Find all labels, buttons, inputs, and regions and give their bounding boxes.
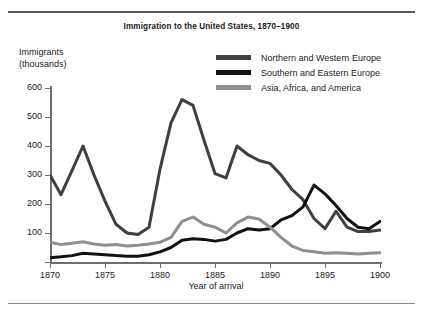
legend-item[interactable]: Southern and Eastern Europe [216, 65, 381, 80]
y-tick-label: 200 [12, 198, 42, 208]
y-tick-label: 100 [12, 227, 42, 237]
legend-label: Southern and Eastern Europe [261, 68, 380, 78]
x-tick-mark [380, 263, 381, 268]
plot-area [50, 88, 381, 263]
x-tick-mark [50, 263, 51, 268]
chart-legend: Northern and Western EuropeSouthern and … [216, 50, 381, 95]
x-tick-label: 1900 [360, 270, 400, 280]
series-line [50, 100, 380, 235]
x-tick-mark [215, 263, 216, 268]
x-tick-label: 1880 [140, 270, 180, 280]
chart-title: Immigration to the United States, 1870–1… [0, 22, 423, 31]
legend-swatch-icon [216, 70, 251, 75]
x-tick-label: 1885 [195, 270, 235, 280]
y-tick-label: 300 [12, 169, 42, 179]
top-divider-rule [8, 11, 415, 13]
y-tick-label: 600 [12, 82, 42, 92]
series-lines [50, 88, 381, 263]
y-tick-label: 400 [12, 140, 42, 150]
legend-swatch-icon [216, 55, 251, 60]
chart-figure: Immigration to the United States, 1870–1… [0, 0, 423, 316]
legend-swatch-icon [216, 85, 251, 90]
x-axis-title: Year of arrival [50, 281, 382, 291]
x-tick-mark [105, 263, 106, 268]
y-tick-label: 500 [12, 111, 42, 121]
x-tick-label: 1895 [305, 270, 345, 280]
x-tick-label: 1875 [85, 270, 125, 280]
legend-item[interactable]: Northern and Western Europe [216, 50, 381, 65]
y-axis-title: Immigrants (thousands) [19, 47, 67, 70]
x-tick-label: 1890 [250, 270, 290, 280]
x-tick-label: 1870 [30, 270, 70, 280]
x-tick-mark [270, 263, 271, 268]
x-tick-mark [160, 263, 161, 268]
bottom-divider-rule [8, 303, 415, 304]
x-tick-mark [325, 263, 326, 268]
legend-label: Asia, Africa, and America [261, 83, 361, 93]
legend-item[interactable]: Asia, Africa, and America [216, 80, 381, 95]
legend-label: Northern and Western Europe [261, 53, 381, 63]
